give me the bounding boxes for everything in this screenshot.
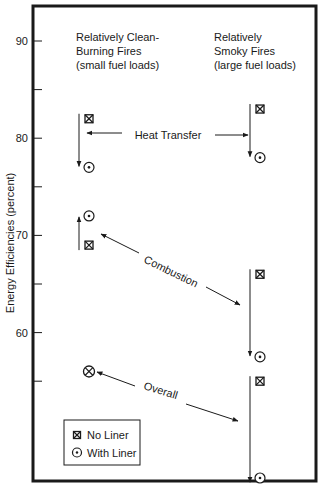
y-tick-label: 90	[16, 35, 28, 47]
column-header-line: Relatively	[214, 31, 262, 43]
boxed-x-icon	[85, 115, 93, 123]
boxed-x-icon	[85, 241, 93, 249]
column-header-line: Relatively Clean-	[76, 31, 159, 43]
boxed-x-icon	[256, 377, 264, 385]
y-tick-label: 80	[16, 132, 28, 144]
boxed-x-icon	[256, 270, 264, 278]
annotation-heat-transfer: Heat Transfer	[87, 129, 248, 141]
column-header-line: Burning Fires	[76, 45, 142, 57]
circled-dot-icon	[255, 153, 265, 163]
annotation-overall: Overall	[97, 372, 238, 421]
column-header-line: (small fuel loads)	[76, 59, 159, 71]
legend-label-no-liner: No Liner	[87, 429, 129, 441]
annotation-label-overall: Overall	[142, 379, 179, 401]
y-tick-label: 70	[16, 229, 28, 241]
energy-efficiency-chart: 90807060 Energy Efficiencies (percent) R…	[0, 0, 331, 486]
y-tick-label: 60	[16, 327, 28, 339]
column-header-clean: Relatively Clean-Burning Fires(small fue…	[76, 31, 159, 71]
legend-label-with-liner: With Liner	[87, 447, 137, 459]
annotation-label-combustion: Combustion	[142, 253, 200, 290]
column-header-smoky: RelativelySmoky Fires(large fuel loads)	[214, 31, 296, 71]
column-header-line: Smoky Fires	[214, 45, 276, 57]
column-header-line: (large fuel loads)	[214, 59, 296, 71]
legend: No Liner With Liner	[64, 420, 140, 465]
circled-dot-icon	[84, 211, 94, 221]
circled-dot-icon	[84, 162, 94, 172]
plot-frame	[33, 6, 316, 481]
annotation-combustion: Combustion	[101, 234, 240, 305]
annotation-label-heat-transfer: Heat Transfer	[135, 129, 202, 141]
y-axis-title: Energy Efficiencies (percent)	[4, 173, 16, 313]
boxed-x-icon	[256, 105, 264, 113]
y-axis: 90807060	[16, 35, 42, 381]
circled-dot-icon	[255, 473, 265, 483]
circled-x-icon	[84, 366, 95, 377]
circled-dot-icon	[255, 352, 265, 362]
